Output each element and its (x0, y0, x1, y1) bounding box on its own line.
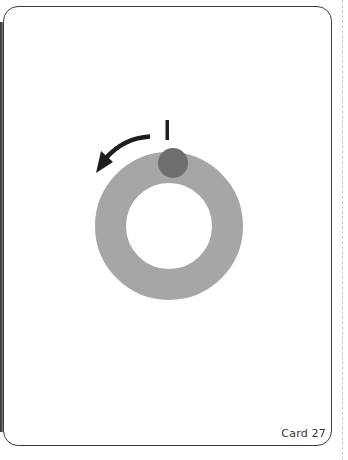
card-sheet: Card 27 (0, 0, 348, 460)
ring-track (111, 168, 228, 285)
rotation-diagram (0, 0, 348, 460)
marker-dot (158, 148, 188, 178)
card-number-label: Card 27 (281, 427, 326, 440)
start-marker-icon (166, 120, 170, 140)
